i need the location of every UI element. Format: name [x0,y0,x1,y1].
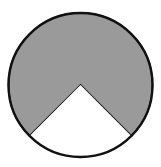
diagram-canvas [0,0,161,167]
circle-sector-diagram [0,0,161,167]
